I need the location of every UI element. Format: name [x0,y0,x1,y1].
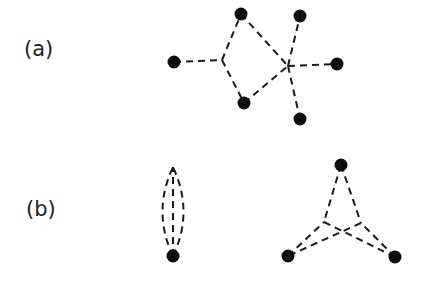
propagator-line [361,223,395,257]
external-node [294,113,307,126]
panel-a-graph [168,8,344,126]
propagator-line [324,165,341,222]
propagator-line [222,60,244,103]
propagator-line [288,222,324,256]
propagator-line [163,167,174,256]
external-node [389,251,402,264]
propagator-line [173,167,184,256]
propagator-line [241,14,288,66]
propagator-line [288,66,300,119]
panel-b-graph [163,159,402,264]
external-node [235,8,248,21]
external-node [282,250,295,263]
external-node [167,250,180,263]
propagator-line [244,66,288,103]
propagator-line [288,16,300,66]
feynman-diagram [0,0,427,282]
external-node [335,159,348,172]
external-node [168,56,181,69]
propagator-line [222,14,241,60]
propagator-line [174,60,222,62]
propagator-line [288,223,361,256]
external-node [238,97,251,110]
external-node [294,10,307,23]
propagator-line [341,165,361,223]
external-node [331,58,344,71]
propagator-line [288,64,337,66]
propagator-line [324,222,395,257]
